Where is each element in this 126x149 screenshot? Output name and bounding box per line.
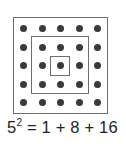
grid-dot (76, 81, 83, 88)
equation-rhs: = 1 + 8 + 16 (22, 118, 118, 136)
equation-base: 5 (7, 118, 16, 136)
grid-dot (39, 81, 46, 88)
grid-dot (76, 62, 83, 69)
grid-dot (39, 62, 46, 69)
grid-dot (57, 44, 64, 51)
grid-dot (94, 44, 101, 51)
grid-dot (39, 25, 46, 32)
equation: 52 = 1 + 8 + 16 (7, 118, 118, 137)
grid-dot (20, 25, 27, 32)
grid-dot (57, 81, 64, 88)
grid-dot (76, 44, 83, 51)
grid-dot (39, 44, 46, 51)
grid-dot (39, 99, 46, 106)
grid-dot (76, 25, 83, 32)
grid-dot (20, 44, 27, 51)
grid-dot (20, 81, 27, 88)
